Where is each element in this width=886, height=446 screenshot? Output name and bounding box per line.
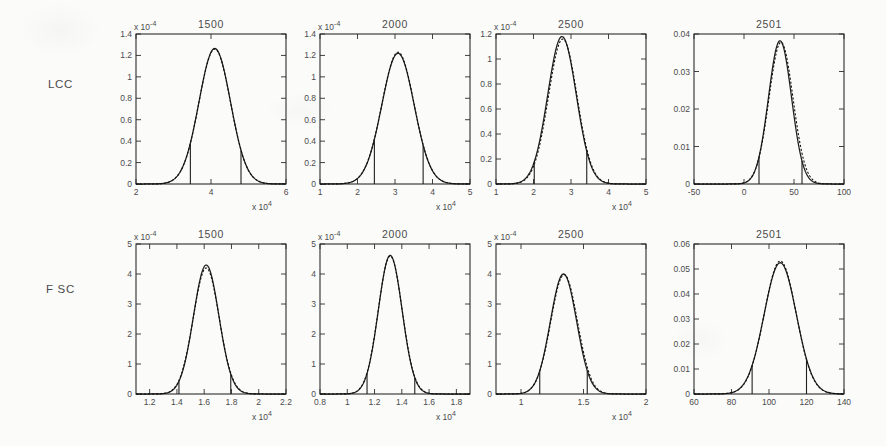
- y-tick-label: 1: [288, 359, 316, 369]
- x-tick-label: 1: [318, 187, 323, 197]
- gaussian-fit-curve: [136, 49, 286, 184]
- x-tick-label: 1.8: [450, 397, 462, 407]
- histogram-curve: [320, 53, 470, 184]
- y-tick-label: 3: [104, 299, 132, 309]
- y-tick-label: 0.06: [660, 239, 690, 249]
- x-tick-label: 2: [644, 397, 649, 407]
- y-tick-label: 0.01: [660, 142, 690, 152]
- histogram-curve: [496, 37, 646, 184]
- y-tick-label: 1.4: [288, 29, 316, 39]
- y-tick-label: 0.6: [464, 104, 492, 114]
- y-tick-label: 2: [288, 329, 316, 339]
- histogram-curve: [136, 48, 286, 184]
- y-tick-label: 0.2: [104, 158, 132, 168]
- histogram-curve: [496, 274, 646, 394]
- plot-axes: [104, 228, 294, 422]
- y-tick-label: 0.02: [660, 339, 690, 349]
- x-tick-label: 2: [355, 187, 360, 197]
- y-tick-label: 2: [464, 329, 492, 339]
- y-tick-label: 4: [104, 269, 132, 279]
- x-tick-label: 2: [256, 397, 261, 407]
- row-label-lcc: LCC: [48, 78, 73, 90]
- x-tick-label: 5: [644, 187, 649, 197]
- x-tick-label: 1: [494, 187, 499, 197]
- y-tick-label: 5: [288, 239, 316, 249]
- x-tick-label: 4: [606, 187, 611, 197]
- x-tick-label: 0.8: [314, 397, 326, 407]
- y-tick-label: 1: [288, 72, 316, 82]
- y-tick-label: 0: [104, 179, 132, 189]
- y-tick-label: 0.03: [660, 314, 690, 324]
- x-tick-label: 1.8: [226, 397, 238, 407]
- plot-axes: [104, 18, 294, 212]
- x-tick-label: 0: [742, 187, 747, 197]
- y-tick-label: 0.2: [288, 158, 316, 168]
- x-tick-label: 4: [209, 187, 214, 197]
- histogram-curve: [320, 255, 470, 394]
- y-tick-label: 2: [104, 329, 132, 339]
- gaussian-fit-curve: [496, 39, 646, 184]
- subplot-fsc-2500: 2500x 10-4x 10401234511.52: [464, 228, 654, 422]
- subplot-lcc-2501: 250100.010.020.030.04-50050100: [660, 18, 852, 212]
- x-tick-label: 1.4: [171, 397, 183, 407]
- x-tick-label: 4: [430, 187, 435, 197]
- y-tick-label: 3: [288, 299, 316, 309]
- histogram-curve: [136, 265, 286, 394]
- x-tick-label: 100: [762, 397, 776, 407]
- y-tick-label: 0: [660, 179, 690, 189]
- y-tick-label: 0.8: [464, 79, 492, 89]
- y-tick-label: 1.2: [464, 29, 492, 39]
- subplot-fsc-2501: 250100.010.020.030.040.050.0660801001201…: [660, 228, 852, 422]
- y-tick-label: 0: [288, 389, 316, 399]
- y-tick-label: 1.4: [104, 29, 132, 39]
- x-tick-label: 3: [569, 187, 574, 197]
- histogram-curve: [694, 41, 844, 184]
- gaussian-fit-curve: [694, 261, 844, 394]
- y-tick-label: 0.2: [464, 154, 492, 164]
- x-tick-label: 3: [393, 187, 398, 197]
- y-tick-label: 0.01: [660, 364, 690, 374]
- y-tick-label: 0.02: [660, 104, 690, 114]
- gaussian-fit-curve: [320, 52, 470, 184]
- y-tick-label: 1: [464, 54, 492, 64]
- y-tick-label: 0: [464, 179, 492, 189]
- y-tick-label: 3: [464, 299, 492, 309]
- subplot-fsc-1500: 1500x 10-4x 1040123451.21.41.61.822.2: [104, 228, 294, 422]
- y-tick-label: 0: [660, 389, 690, 399]
- x-tick-label: 80: [727, 397, 736, 407]
- plot-axes: [288, 228, 478, 422]
- y-tick-label: 0.05: [660, 264, 690, 274]
- y-tick-label: 4: [464, 269, 492, 279]
- y-tick-label: 0.4: [464, 129, 492, 139]
- y-tick-label: 0.4: [104, 136, 132, 146]
- y-tick-label: 0.8: [104, 93, 132, 103]
- y-tick-label: 0.8: [288, 93, 316, 103]
- x-tick-label: 1.4: [396, 397, 408, 407]
- x-tick-label: 120: [799, 397, 813, 407]
- x-tick-label: 2: [134, 187, 139, 197]
- y-tick-label: 0.04: [660, 29, 690, 39]
- y-tick-label: 1: [104, 359, 132, 369]
- gaussian-fit-curve: [136, 268, 286, 394]
- histogram-curve: [694, 263, 844, 394]
- plot-axes: [464, 18, 654, 212]
- x-tick-label: 60: [689, 397, 698, 407]
- x-tick-label: -50: [688, 187, 700, 197]
- x-tick-label: 1.5: [578, 397, 590, 407]
- y-tick-label: 0: [104, 389, 132, 399]
- x-tick-label: 1.2: [369, 397, 381, 407]
- y-tick-label: 0.4: [288, 136, 316, 146]
- x-tick-label: 1.2: [144, 397, 156, 407]
- subplot-lcc-2000: 2000x 10-4x 10400.20.40.60.811.21.412345: [288, 18, 478, 212]
- figure-page: LCC F SC 1500x 10-4x 10400.20.40.60.811.…: [0, 0, 886, 446]
- subplot-lcc-2500: 2500x 10-4x 10400.20.40.60.811.212345: [464, 18, 654, 212]
- x-tick-label: 1: [345, 397, 350, 407]
- y-tick-label: 1.2: [288, 50, 316, 60]
- y-tick-label: 0.03: [660, 67, 690, 77]
- plot-axes: [464, 228, 654, 422]
- x-tick-label: 2: [531, 187, 536, 197]
- y-tick-label: 1: [104, 72, 132, 82]
- x-tick-label: 50: [789, 187, 798, 197]
- gaussian-fit-curve: [320, 256, 470, 394]
- x-tick-label: 1.6: [423, 397, 435, 407]
